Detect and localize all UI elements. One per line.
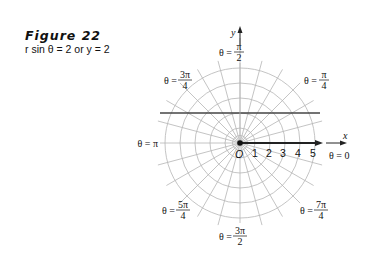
polar-axis-arrowhead-icon bbox=[315, 140, 323, 146]
svg-text:3π: 3π bbox=[180, 69, 190, 80]
svg-text:4: 4 bbox=[181, 210, 186, 221]
y-axis-arrowhead-icon bbox=[238, 26, 243, 33]
svg-text:θ =: θ = bbox=[219, 47, 232, 58]
svg-text:π: π bbox=[321, 69, 326, 80]
label-theta-pi-over-2: θ = π 2 bbox=[219, 41, 244, 63]
svg-text:θ =: θ = bbox=[300, 205, 313, 216]
svg-text:2: 2 bbox=[238, 236, 243, 247]
svg-text:π: π bbox=[236, 41, 241, 52]
svg-text:4: 4 bbox=[322, 80, 327, 91]
svg-text:θ =: θ = bbox=[162, 205, 175, 216]
origin-point bbox=[237, 140, 243, 146]
label-theta-0: θ = 0 bbox=[329, 150, 349, 161]
label-theta-pi: θ = π bbox=[138, 138, 158, 149]
label-theta-3pi-over-2: θ = 3π 2 bbox=[219, 225, 247, 247]
radial-tick-3: 3 bbox=[280, 147, 286, 159]
svg-text:2: 2 bbox=[237, 52, 242, 63]
svg-text:7π: 7π bbox=[316, 199, 326, 210]
svg-text:θ =: θ = bbox=[219, 231, 232, 242]
label-theta-3pi-over-4: θ = 3π 4 bbox=[164, 69, 192, 91]
radial-tick-4: 4 bbox=[295, 147, 301, 159]
label-theta-pi-over-4: θ = π 4 bbox=[304, 69, 329, 91]
svg-text:5π: 5π bbox=[178, 199, 188, 210]
svg-text:3π: 3π bbox=[235, 225, 245, 236]
radial-tick-5: 5 bbox=[310, 147, 316, 159]
radial-tick-1: 1 bbox=[252, 147, 258, 159]
x-axis-label: x bbox=[342, 130, 348, 141]
polar-grid-plot: y x O 1 2 3 4 5 θ = 0 θ = π θ = π 2 θ = … bbox=[0, 0, 365, 257]
label-theta-5pi-over-4: θ = 5π 4 bbox=[162, 199, 190, 221]
x-axis-arrowhead-icon bbox=[340, 141, 347, 146]
svg-text:θ =: θ = bbox=[304, 75, 317, 86]
svg-text:4: 4 bbox=[183, 80, 188, 91]
svg-text:θ =: θ = bbox=[164, 75, 177, 86]
y-axis-label: y bbox=[230, 27, 236, 38]
svg-text:4: 4 bbox=[319, 210, 324, 221]
radial-tick-2: 2 bbox=[266, 147, 272, 159]
origin-label: O bbox=[235, 148, 243, 160]
label-theta-7pi-over-4: θ = 7π 4 bbox=[300, 199, 328, 221]
